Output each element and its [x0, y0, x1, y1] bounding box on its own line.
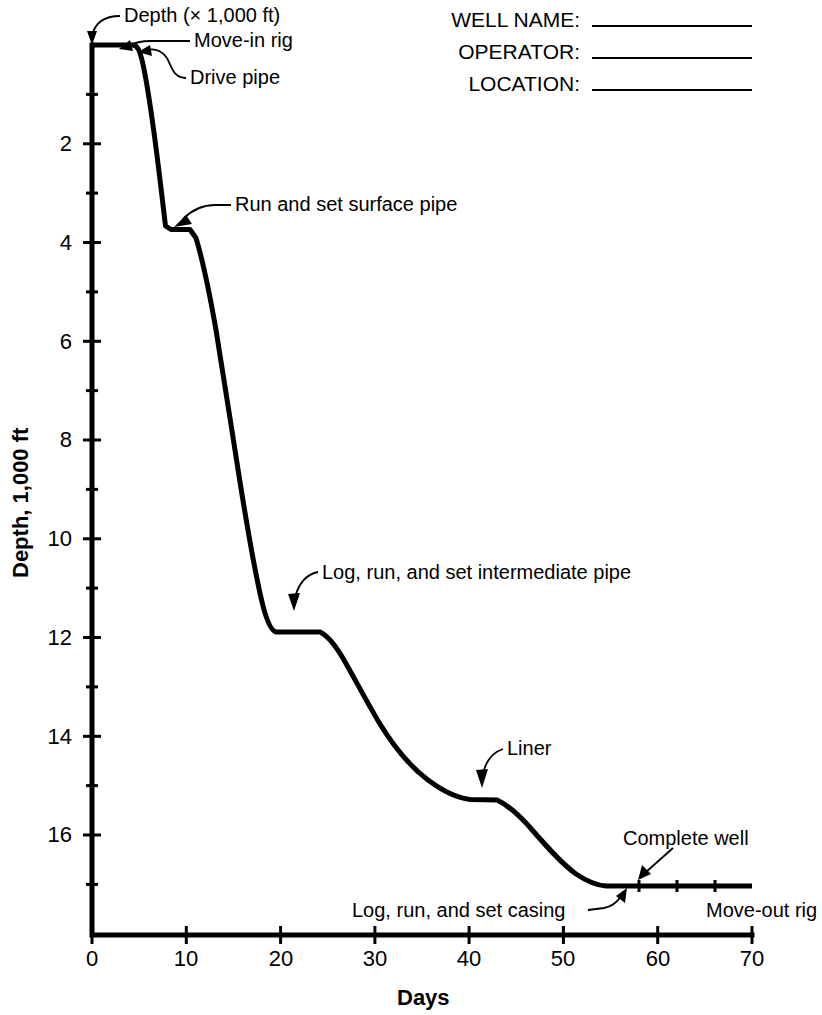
- annotation-intermediate-pipe: Log, run, and set intermediate pipe: [322, 561, 631, 584]
- leader-set-casing: [588, 888, 627, 910]
- annotation-surface-pipe: Run and set surface pipe: [235, 193, 457, 216]
- y-tick-label-4: 4: [26, 230, 72, 256]
- x-tick-label-0: 0: [72, 946, 112, 972]
- y-tick-label-12: 12: [26, 625, 72, 651]
- annotation-set-casing: Log, run, and set casing: [352, 899, 565, 922]
- x-axis-title: Days: [397, 985, 450, 1011]
- x-tick-label-10: 10: [166, 946, 206, 972]
- drilling-time-depth-figure: Depth (× 1,000 ft) Move-in rig Drive pip…: [0, 0, 822, 1015]
- form-label-location: LOCATION:: [330, 72, 580, 96]
- annotation-depth-caption: Depth (× 1,000 ft): [124, 4, 280, 27]
- y-axis-title: Depth, 1,000 ft: [8, 428, 34, 578]
- depth-vs-days-curve: [92, 45, 752, 886]
- leader-intermediate-pipe: [288, 572, 318, 611]
- annotation-liner: Liner: [507, 737, 551, 760]
- form-input-well-name[interactable]: [592, 4, 752, 26]
- x-tick-label-70: 70: [732, 946, 772, 972]
- leader-liner: [476, 749, 503, 788]
- leader-complete-well: [638, 848, 673, 880]
- y-tick-label-14: 14: [26, 724, 72, 750]
- form-label-operator: OPERATOR:: [330, 40, 580, 64]
- x-tick-label-60: 60: [638, 946, 678, 972]
- x-tick-label-30: 30: [355, 946, 395, 972]
- leader-surface-pipe: [174, 205, 231, 227]
- form-label-well-name: WELL NAME:: [330, 8, 580, 32]
- chart-canvas: [0, 0, 822, 1015]
- x-tick-label-40: 40: [449, 946, 489, 972]
- leader-depth-caption: [87, 16, 120, 45]
- y-tick-label-6: 6: [26, 329, 72, 355]
- x-tick-label-50: 50: [543, 946, 583, 972]
- annotation-complete-well: Complete well: [623, 827, 749, 850]
- form-input-location[interactable]: [592, 68, 752, 90]
- y-tick-label-2: 2: [26, 131, 72, 157]
- annotation-move-out-rig: Move-out rig: [706, 899, 817, 922]
- x-tick-label-20: 20: [261, 946, 301, 972]
- axis-lines: [92, 45, 752, 935]
- annotation-move-in-rig: Move-in rig: [194, 29, 293, 52]
- annotation-drive-pipe: Drive pipe: [190, 66, 280, 89]
- form-input-operator[interactable]: [592, 36, 752, 58]
- y-tick-label-16: 16: [26, 822, 72, 848]
